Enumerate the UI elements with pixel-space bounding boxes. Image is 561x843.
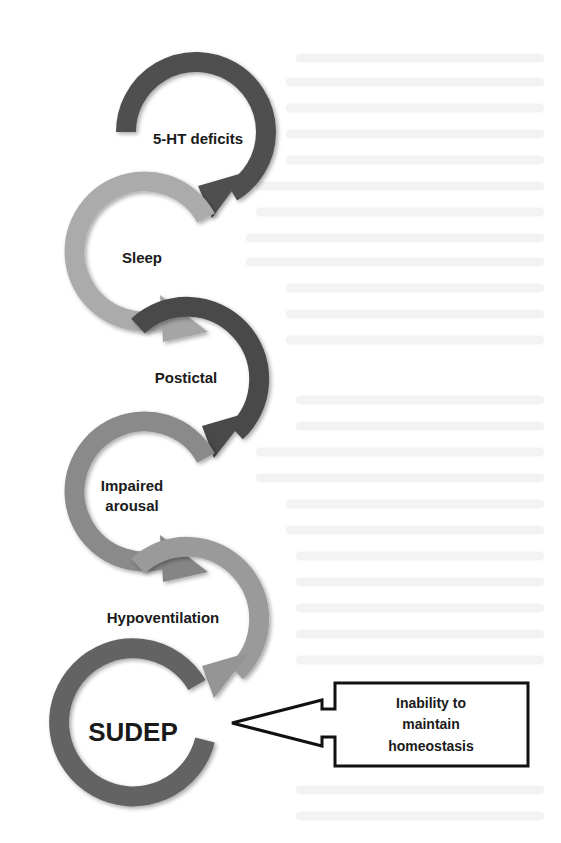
- sudep-cascade-diagram: 5-HT deficits Sleep Postictal Impaired a…: [0, 0, 561, 843]
- step-label-postictal: Postictal: [155, 369, 218, 386]
- step-label-sleep: Sleep: [122, 249, 162, 266]
- step-label-hypoventilation: Hypoventilation: [107, 609, 220, 626]
- callout-text-line3: homeostasis: [388, 738, 474, 754]
- step-label-sudep: SUDEP: [88, 717, 178, 747]
- callout-box: Inability to maintain homeostasis: [232, 683, 528, 766]
- step-label-5ht-deficits: 5-HT deficits: [153, 130, 243, 147]
- callout-text-line1: Inability to: [396, 695, 466, 711]
- callout-text-line2: maintain: [402, 716, 460, 732]
- step-label-impaired-arousal-line2: arousal: [105, 497, 158, 514]
- step-label-impaired-arousal-line1: Impaired: [101, 477, 164, 494]
